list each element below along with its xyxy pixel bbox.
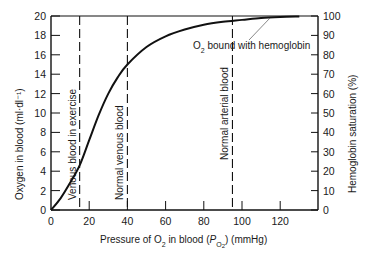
y2-tick-label: 90 xyxy=(323,29,335,41)
y2-axis-title: Hemoglobin saturation (%) xyxy=(347,75,358,193)
x-tick-label: 20 xyxy=(83,215,95,227)
y-tick-label: 20 xyxy=(34,10,46,22)
labels: O2 bound with hemoglobinPressure of O2 i… xyxy=(14,18,358,249)
x-tick-label: 120 xyxy=(271,215,289,227)
x-axis-title: Pressure of O2 in blood (PO2) (mmHg) xyxy=(100,234,267,249)
x-tick-label: 0 xyxy=(48,215,54,227)
y2-tick-label: 70 xyxy=(323,68,335,80)
x-tick-label: 80 xyxy=(198,215,210,227)
y-tick-label: 2 xyxy=(40,185,46,197)
reference-line-label: Normal arterial blood xyxy=(219,67,230,160)
y-tick-label: 16 xyxy=(34,49,46,61)
y-axis-title: Oxygen in blood (ml·dl⁻¹) xyxy=(14,88,25,200)
y2-tick-label: 0 xyxy=(323,204,329,216)
curve-annotation: O2 bound with hemoglobin xyxy=(193,40,310,54)
x-tick-label: 100 xyxy=(233,215,251,227)
oxygen-dissociation-chart: 0246810121416182001020304050607080901000… xyxy=(0,0,368,257)
y-tick-label: 0 xyxy=(40,204,46,216)
y-tick-label: 8 xyxy=(40,126,46,138)
y-tick-label: 6 xyxy=(40,146,46,158)
reference-line-label: Normal venous blood xyxy=(114,106,125,201)
y-tick-label: 10 xyxy=(34,107,46,119)
y2-tick-label: 30 xyxy=(323,146,335,158)
y2-tick-label: 60 xyxy=(323,88,335,100)
y2-tick-label: 40 xyxy=(323,126,335,138)
y2-tick-label: 20 xyxy=(323,165,335,177)
y2-tick-label: 10 xyxy=(323,185,335,197)
y-tick-label: 18 xyxy=(34,29,46,41)
y2-tick-label: 100 xyxy=(323,10,341,22)
reference-line-label: Venous blood in exercise xyxy=(67,88,78,200)
x-tick-label: 40 xyxy=(122,215,134,227)
y-tick-label: 12 xyxy=(34,88,46,100)
y2-tick-label: 50 xyxy=(323,107,335,119)
x-tick-label: 60 xyxy=(160,215,172,227)
y-tick-label: 4 xyxy=(40,165,46,177)
annotation-leader xyxy=(249,18,270,40)
y2-tick-label: 80 xyxy=(323,49,335,61)
y-tick-label: 14 xyxy=(34,68,46,80)
